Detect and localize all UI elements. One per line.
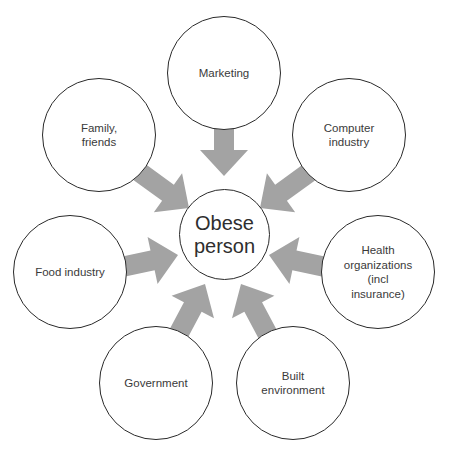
- node-marketing: Marketing: [167, 16, 281, 130]
- node-label: Built environment: [261, 369, 324, 398]
- node-label: Family, friends: [81, 121, 117, 150]
- center-label: Obese person: [194, 212, 255, 258]
- node-label: Food industry: [35, 265, 105, 280]
- node-computer-industry: Computer industry: [292, 78, 406, 192]
- node-government: Government: [99, 326, 213, 440]
- node-label: Marketing: [199, 66, 250, 81]
- node-obese-person: Obese person: [179, 189, 270, 280]
- node-label: Health organizations (incl insurance): [344, 243, 412, 301]
- node-food-industry: Food industry: [13, 215, 127, 329]
- node-label: Computer industry: [324, 121, 375, 150]
- node-label: Government: [124, 376, 187, 391]
- node-built-environment: Built environment: [236, 326, 350, 440]
- node-family-friends: Family, friends: [42, 78, 156, 192]
- node-health-organizations: Health organizations (incl insurance): [321, 215, 435, 329]
